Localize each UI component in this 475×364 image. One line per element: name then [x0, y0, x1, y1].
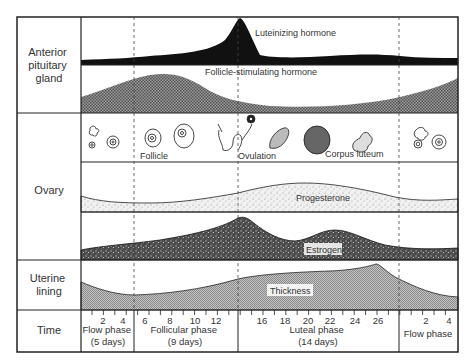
- day-number: 26: [373, 315, 384, 326]
- lh-curve: [81, 18, 458, 65]
- row-label-time: Time: [37, 324, 61, 336]
- fsh-label: Follicle-stimulating hormone: [205, 67, 317, 77]
- row-label-uterine: Uterine lining: [30, 272, 69, 297]
- ovulation-label: Ovulation: [238, 151, 276, 161]
- estrogen-curve: [81, 217, 458, 260]
- row-label-ovary: Ovary: [34, 184, 64, 196]
- day-number: 16: [257, 315, 268, 326]
- progesterone-curve: [81, 183, 458, 212]
- phase-follicular: Follicular phase (9 days): [150, 324, 219, 347]
- thickness-label: Thickness: [270, 286, 311, 296]
- day-number: 24: [350, 315, 361, 326]
- lh-label: Luteinizing hormone: [255, 28, 336, 38]
- estrogen-label: Estrogen: [306, 245, 342, 255]
- phase-flow-2: Flow phase: [404, 328, 453, 339]
- row-label-pituitary: Anterior pituitary gland: [28, 46, 70, 84]
- corpus-luteum-label: Corpus luteum: [325, 149, 384, 159]
- ovary-follicle-illustrations: [89, 115, 446, 154]
- follicle-label: Follicle: [140, 151, 168, 161]
- phase-luteal: Luteal phase (14 days): [289, 324, 346, 347]
- day-number: 4: [446, 315, 451, 326]
- fsh-curve: [81, 74, 458, 113]
- phase-flow-1: Flow phase (5 days): [82, 324, 133, 347]
- progesterone-label: Progesterone: [296, 193, 350, 203]
- menstrual-cycle-diagram: Anterior pituitary gland Ovary Uterine l…: [0, 0, 475, 364]
- day-number: 2: [423, 315, 428, 326]
- day-number: 6: [142, 315, 147, 326]
